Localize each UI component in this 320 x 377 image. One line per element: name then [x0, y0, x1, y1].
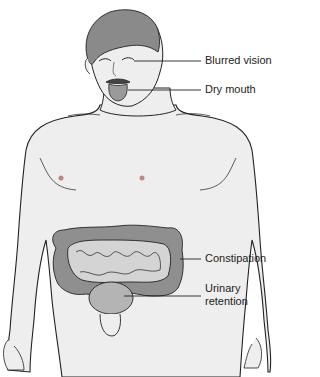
small-intestine	[68, 240, 171, 283]
head	[85, 10, 163, 107]
left-nipple	[59, 176, 64, 181]
right-hand	[244, 338, 262, 368]
right-nipple	[140, 176, 145, 181]
label-retention: retention	[205, 295, 248, 308]
label-blurred-vision: Blurred vision	[205, 54, 272, 67]
label-constipation: Constipation	[205, 252, 266, 265]
bladder	[89, 282, 133, 314]
label-urinary: Urinary	[205, 282, 240, 295]
label-dry-mouth: Dry mouth	[205, 83, 256, 96]
